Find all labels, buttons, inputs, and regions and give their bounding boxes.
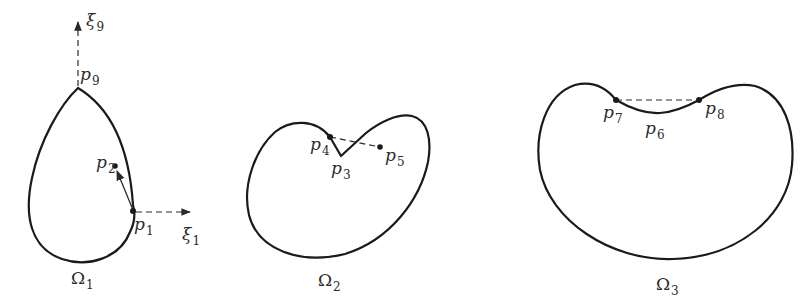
diagram-canvas <box>0 0 811 304</box>
label-p8: p8 <box>705 100 725 121</box>
omega3-boundary <box>538 84 792 259</box>
point-p8 <box>696 97 702 103</box>
label-p7: p7 <box>603 104 623 125</box>
omega2-shape <box>247 115 429 257</box>
label-xi9: ξ9 <box>86 12 104 33</box>
label-p4: p4 <box>310 136 330 157</box>
label-omega2: Ω2 <box>318 272 341 293</box>
label-p5: p5 <box>385 147 405 168</box>
label-p2: p2 <box>96 154 116 175</box>
label-xi1: ξ1 <box>182 226 200 247</box>
omega2-boundary <box>247 115 429 257</box>
label-p3: p3 <box>331 160 351 181</box>
label-omega1: Ω1 <box>71 270 94 291</box>
point-p5 <box>377 144 383 150</box>
p4-p5-segment <box>330 137 380 147</box>
label-p9: p9 <box>80 66 100 87</box>
omega3-shape <box>538 84 792 259</box>
label-omega3: Ω3 <box>656 276 679 297</box>
label-p1: p1 <box>134 216 154 237</box>
label-p6: p6 <box>645 120 665 141</box>
omega1-shape <box>29 22 190 262</box>
